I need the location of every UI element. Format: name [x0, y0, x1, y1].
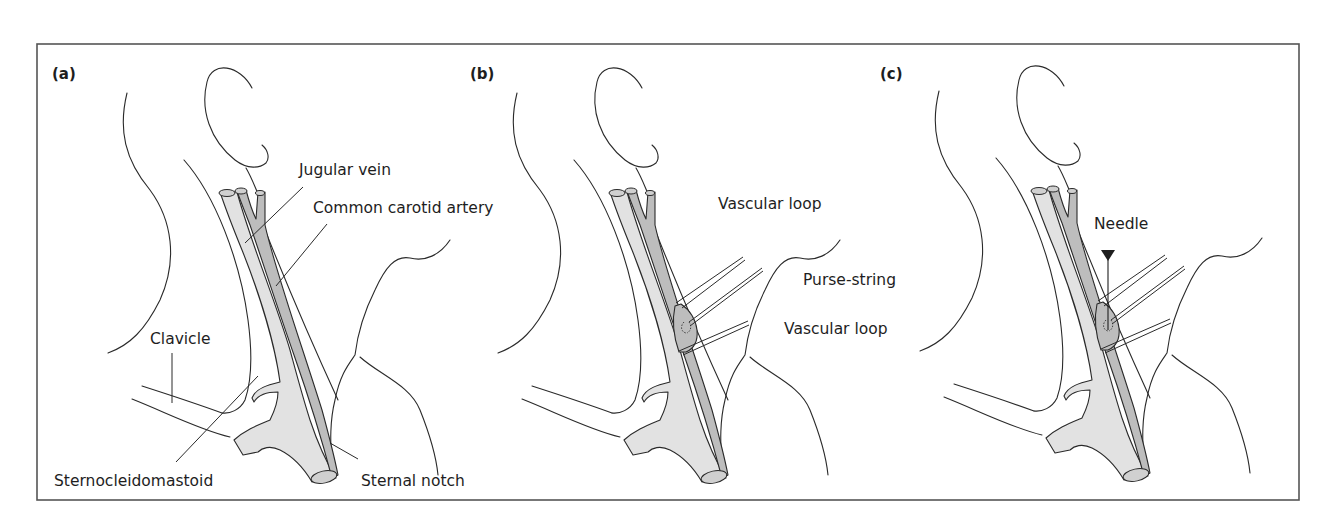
panel-b: (b) Vascular loop Purse-string Vascular … — [470, 65, 896, 486]
neck-anatomy-illustration — [108, 68, 450, 486]
label-vascular-loop-lower: Vascular loop — [784, 320, 888, 338]
carotid-cannulation-figure: (a) Jugular vein Common carotid artery C… — [0, 0, 1331, 513]
leader-common-carotid — [276, 224, 327, 286]
label-common-carotid-artery: Common carotid artery — [313, 199, 493, 217]
panel-label-a: (a) — [52, 65, 76, 83]
label-needle: Needle — [1094, 215, 1148, 233]
label-jugular-vein: Jugular vein — [298, 161, 391, 179]
panel-label-c: (c) — [880, 65, 903, 83]
neck-anatomy-illustration — [920, 66, 1262, 484]
neck-anatomy-illustration — [498, 68, 840, 486]
label-purse-string: Purse-string — [803, 271, 896, 289]
label-sternal-notch: Sternal notch — [361, 472, 465, 490]
panel-label-b: (b) — [470, 65, 494, 83]
panel-a: (a) Jugular vein Common carotid artery C… — [52, 65, 493, 490]
label-vascular-loop-upper: Vascular loop — [718, 195, 822, 213]
label-clavicle: Clavicle — [150, 330, 210, 348]
label-sternocleidomastoid: Sternocleidomastoid — [54, 472, 213, 490]
panel-c: (c) Needle — [880, 65, 1262, 484]
